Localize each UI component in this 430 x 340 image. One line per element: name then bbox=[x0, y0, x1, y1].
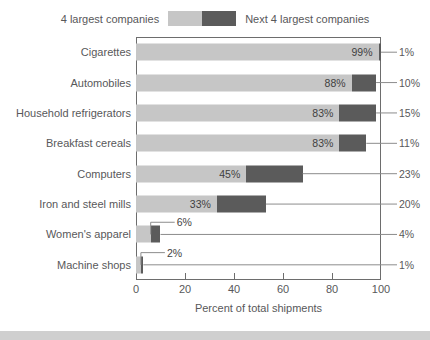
x-axis-tick-label: 100 bbox=[372, 283, 390, 295]
x-axis-tick-label: 80 bbox=[326, 283, 338, 295]
category-axis-labels: CigarettesAutomobilesHousehold refrigera… bbox=[0, 37, 131, 280]
bar-segment-next-4-largest bbox=[246, 165, 302, 182]
x-axis-tick-label: 40 bbox=[228, 283, 240, 295]
bar-segment-next-4-largest bbox=[339, 104, 376, 121]
bar-value-label: 2% bbox=[167, 247, 182, 259]
series2-value-label: 1% bbox=[399, 259, 414, 271]
category-label: Automobiles bbox=[0, 77, 131, 89]
stacked-bar[interactable] bbox=[136, 104, 376, 121]
bar-segment-next-4-largest bbox=[352, 74, 377, 91]
category-label: Computers bbox=[0, 168, 131, 180]
series2-value-label: 15% bbox=[399, 107, 420, 119]
bar-value-label: 88% bbox=[325, 77, 346, 89]
x-axis-tick-label: 20 bbox=[179, 283, 191, 295]
legend-label-4-largest: 4 largest companies bbox=[61, 13, 159, 25]
bar-row: 99% bbox=[136, 37, 381, 67]
x-axis-title: Percent of total shipments bbox=[136, 302, 381, 314]
bar-segment-next-4-largest bbox=[217, 196, 266, 213]
next-4-largest-companies-swatch bbox=[202, 11, 236, 26]
stacked-bar[interactable] bbox=[136, 44, 381, 61]
bar-value-label: 6% bbox=[177, 216, 192, 228]
4-largest-companies-swatch bbox=[168, 11, 202, 26]
bar-value-label: 83% bbox=[312, 107, 333, 119]
bar-segment-4-largest bbox=[136, 226, 151, 243]
series2-value-label: 10% bbox=[399, 77, 420, 89]
bar-value-label: 33% bbox=[190, 198, 211, 210]
bottom-band bbox=[0, 331, 430, 340]
x-axis-tick bbox=[332, 273, 333, 280]
bar-row: 83% bbox=[136, 98, 381, 128]
x-axis-tick-labels: 020406080100 bbox=[136, 283, 381, 297]
x-axis-tick bbox=[283, 273, 284, 280]
x-axis-tick-label: 0 bbox=[133, 283, 139, 295]
series2-value-label: 11% bbox=[399, 137, 419, 149]
bar-row: 88% bbox=[136, 67, 381, 97]
category-label: Iron and steel mills bbox=[0, 198, 131, 210]
legend-label-next-4-largest: Next 4 largest companies bbox=[245, 13, 369, 25]
bar-segment-next-4-largest bbox=[339, 135, 366, 152]
category-label: Breakfast cereals bbox=[0, 137, 131, 149]
bar-value-label: 45% bbox=[219, 168, 240, 180]
chart-legend: 4 largest companies Next 4 largest compa… bbox=[0, 11, 430, 26]
bar-row: 33% bbox=[136, 189, 381, 219]
bar-value-label: 83% bbox=[312, 137, 333, 149]
bar-segment-4-largest bbox=[136, 44, 379, 61]
stacked-bar[interactable] bbox=[136, 256, 143, 273]
bar-segment-next-4-largest bbox=[151, 226, 161, 243]
bar-segment-4-largest bbox=[136, 135, 339, 152]
bar-value-label: 99% bbox=[352, 46, 373, 58]
x-axis-tick-label: 60 bbox=[277, 283, 289, 295]
stacked-bar[interactable] bbox=[136, 226, 161, 243]
series2-value-label: 1% bbox=[399, 46, 414, 58]
category-label: Machine shops bbox=[0, 259, 131, 271]
bar-row: 45% bbox=[136, 159, 381, 189]
bar-segment-4-largest bbox=[136, 104, 339, 121]
legend-swatches bbox=[168, 11, 236, 26]
bar-segment-4-largest bbox=[136, 74, 352, 91]
bars-layer: 99%88%83%83%45%33%6%2% bbox=[136, 37, 381, 280]
series2-value-label: 23% bbox=[399, 168, 420, 180]
x-axis-tick bbox=[185, 273, 186, 280]
bar-row: 2% bbox=[136, 250, 381, 280]
bar-row: 6% bbox=[136, 219, 381, 249]
bar-segment-next-4-largest bbox=[141, 256, 143, 273]
series2-value-label: 4% bbox=[399, 228, 414, 240]
right-annotations: 1%10%15%11%23%20%4%1% bbox=[381, 37, 430, 280]
category-label: Household refrigerators bbox=[0, 107, 131, 119]
category-label: Cigarettes bbox=[0, 46, 131, 58]
bar-row: 83% bbox=[136, 128, 381, 158]
series2-value-label: 20% bbox=[399, 198, 420, 210]
x-axis-tick bbox=[234, 273, 235, 280]
category-label: Women's apparel bbox=[0, 228, 131, 240]
